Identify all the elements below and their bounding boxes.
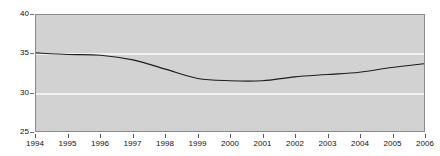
x-tick-mark-2001 — [263, 134, 264, 138]
y-tick-label-30: 30 — [20, 89, 29, 97]
y-tick-label-35: 35 — [20, 49, 29, 57]
x-tick-mark-1997 — [133, 134, 134, 138]
x-tick-label-2004: 2004 — [351, 139, 369, 148]
x-tick-label-1998: 1998 — [156, 139, 174, 148]
y-tick-mark-25 — [30, 132, 34, 133]
x-tick-mark-1995 — [68, 134, 69, 138]
x-axis: 1994199519961997199819992000200120022003… — [0, 134, 440, 156]
x-tick-mark-1994 — [35, 134, 36, 138]
y-tick-mark-30 — [30, 93, 34, 94]
plot-area — [35, 14, 425, 132]
x-tick-label-2000: 2000 — [221, 139, 239, 148]
y-tick-mark-35 — [30, 53, 34, 54]
line-chart: 25303540 1994199519961997199819992000200… — [0, 0, 440, 156]
x-tick-label-1996: 1996 — [91, 139, 109, 148]
x-tick-mark-2002 — [295, 134, 296, 138]
x-tick-mark-2005 — [393, 134, 394, 138]
series-line-layer — [36, 15, 424, 131]
x-tick-label-2003: 2003 — [319, 139, 337, 148]
x-tick-label-2006: 2006 — [416, 139, 434, 148]
y-axis: 25303540 — [0, 0, 33, 156]
x-tick-mark-1996 — [100, 134, 101, 138]
y-tick-mark-40 — [30, 14, 34, 15]
x-tick-mark-1998 — [165, 134, 166, 138]
x-tick-label-1999: 1999 — [189, 139, 207, 148]
x-tick-mark-1999 — [198, 134, 199, 138]
x-tick-label-1997: 1997 — [124, 139, 142, 148]
x-tick-label-1994: 1994 — [26, 139, 44, 148]
x-tick-label-2005: 2005 — [384, 139, 402, 148]
x-tick-label-2002: 2002 — [286, 139, 304, 148]
x-tick-label-1995: 1995 — [59, 139, 77, 148]
series-line-path — [36, 53, 424, 81]
x-tick-mark-2000 — [230, 134, 231, 138]
x-tick-mark-2006 — [425, 134, 426, 138]
x-tick-label-2001: 2001 — [254, 139, 272, 148]
x-tick-mark-2004 — [360, 134, 361, 138]
y-tick-label-40: 40 — [20, 10, 29, 18]
x-tick-mark-2003 — [328, 134, 329, 138]
